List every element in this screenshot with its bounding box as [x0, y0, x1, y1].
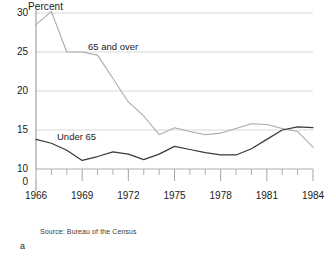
plot-area	[0, 0, 326, 256]
chart-container: Percent 30 25 20 15 10 0 1966 1969 1972 …	[0, 0, 326, 256]
